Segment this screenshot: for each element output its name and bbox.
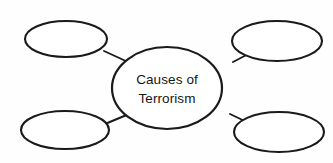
branch-node-top-right[interactable]: [232, 21, 322, 61]
branch-node-bottom-right[interactable]: [234, 112, 324, 152]
branch-node-top-left[interactable]: [25, 21, 107, 57]
diagram-canvas: Causes of Terrorism: [0, 0, 333, 163]
branch-ellipse-bottom-left[interactable]: [21, 111, 109, 149]
center-label-line2: Terrorism: [138, 91, 195, 106]
center-node[interactable]: Causes of Terrorism: [112, 47, 222, 129]
connector-top-left: [104, 51, 128, 62]
branch-ellipse-top-left[interactable]: [25, 21, 107, 57]
center-label-line1: Causes of: [136, 72, 198, 87]
branch-node-bottom-left[interactable]: [21, 111, 109, 149]
branch-ellipse-top-right[interactable]: [232, 21, 322, 61]
mind-map-diagram: Causes of Terrorism: [0, 0, 333, 163]
branch-ellipse-bottom-right[interactable]: [234, 112, 324, 152]
center-ellipse[interactable]: [112, 47, 222, 129]
